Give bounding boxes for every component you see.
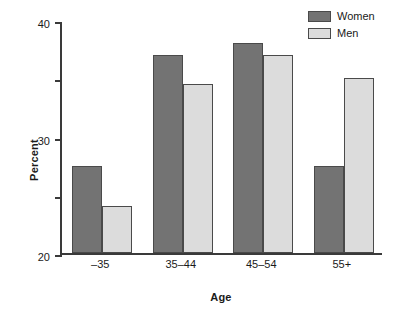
y-tick-label: 40 xyxy=(38,19,50,30)
x-tick-label: –35 xyxy=(91,258,109,270)
x-tick-label: 45–54 xyxy=(246,258,277,270)
y-tick-label: 30 xyxy=(38,135,50,146)
bar-men-3 xyxy=(344,78,374,253)
bar-men-2 xyxy=(263,55,293,253)
y-tick-mark: 30 xyxy=(55,80,62,82)
legend-swatch-women xyxy=(308,11,331,22)
legend-label-women: Women xyxy=(337,11,375,22)
bar-women-3 xyxy=(314,166,344,253)
bar-women-1 xyxy=(153,55,183,253)
bars-layer xyxy=(62,22,382,253)
bar-men-1 xyxy=(183,84,213,253)
x-axis-ticks: –3535–4445–5455+ xyxy=(60,258,382,274)
x-axis-title: Age xyxy=(60,291,382,303)
y-tick-mark: 40 xyxy=(55,22,62,24)
y-tick-mark: 20 xyxy=(55,139,62,141)
bar-women-0 xyxy=(72,166,102,253)
x-tick-label: 55+ xyxy=(332,258,351,270)
y-tick-mark: 10 xyxy=(55,197,62,199)
y-tick-mark: 0 xyxy=(55,255,62,257)
bar-chart: Women Men Percent 010203040 –3535–4445–5… xyxy=(0,0,402,319)
bar-women-2 xyxy=(233,43,263,253)
x-tick-label: 35–44 xyxy=(165,258,196,270)
y-tick-label: 20 xyxy=(38,252,50,263)
plot-area: 010203040 xyxy=(60,22,382,255)
bar-men-0 xyxy=(102,206,132,253)
